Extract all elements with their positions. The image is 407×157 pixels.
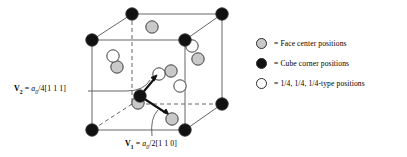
- cube-corner-atom: [216, 8, 228, 20]
- cube-corner-atom: [216, 98, 228, 110]
- legend-label-face-center: = Face center positions: [274, 39, 347, 48]
- legend-item-cube-corner: = Cube corner positions: [256, 53, 406, 73]
- cube-corner-atom: [126, 8, 138, 20]
- face-center-atom: [165, 65, 177, 77]
- edge-top-left-diagonal: [92, 14, 132, 40]
- legend-item-quarter-position: = 1/4, 1/4, 1/4-type positions: [256, 73, 406, 93]
- vector-label-v2: V2 = a0/4[1 1 1]: [14, 84, 66, 95]
- vector-v1-equals: =: [136, 139, 141, 148]
- legend-label-quarter-position: = 1/4, 1/4, 1/4-type positions: [274, 79, 365, 88]
- edge-back-bottom-left-to-front-bottom-left: [92, 104, 132, 130]
- cube-corner-atom: [179, 34, 191, 46]
- cube-corner-atom: [86, 34, 98, 46]
- leader-line-v1: [152, 110, 158, 136]
- cube-corner-atom-origin: [134, 90, 146, 102]
- leader-line-v2: [88, 80, 150, 91]
- quarter-position-atom: [174, 80, 186, 92]
- face-center-atom: [146, 21, 158, 33]
- legend-label-cube-corner: = Cube corner positions: [274, 59, 349, 68]
- cube-corner-atom: [86, 124, 98, 136]
- face-center-atoms: [111, 21, 204, 109]
- quarter-position-atom: [107, 50, 119, 62]
- face-center-circle-icon: [256, 38, 267, 49]
- edge-top-right-diagonal: [185, 14, 222, 40]
- legend-item-face-center: = Face center positions: [256, 33, 406, 53]
- legend: = Face center positions = Cube corner po…: [256, 33, 406, 93]
- face-center-atom: [111, 61, 123, 73]
- vector-v2-subscript: 2: [20, 89, 23, 95]
- crystal-structure-figure: = Face center positions = Cube corner po…: [0, 0, 407, 157]
- cube-corner-atom: [179, 124, 191, 136]
- vector-v2-expression: /4[1 1 1]: [38, 84, 66, 93]
- edge-bottom-right-diagonal: [185, 104, 222, 130]
- cube-corner-circle-icon: [256, 58, 267, 69]
- face-center-atom: [166, 113, 178, 125]
- face-center-atom: [192, 53, 204, 65]
- vector-v2-equals: =: [25, 84, 30, 93]
- vector-v1-expression: /2[1 1 0]: [149, 139, 177, 148]
- quarter-position-circle-icon: [256, 78, 267, 89]
- vector-label-v1: V1 = a0/2[1 1 0]: [125, 139, 177, 150]
- vector-v1-subscript: 1: [131, 144, 134, 150]
